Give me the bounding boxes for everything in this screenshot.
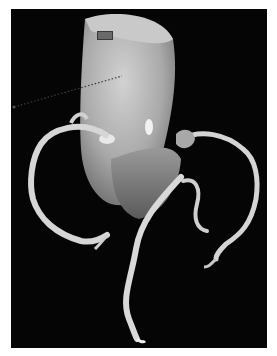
diagonal-branch <box>183 180 207 231</box>
orientation-marker <box>97 31 113 40</box>
circumflex-artery <box>181 134 257 259</box>
heart-base <box>111 147 181 219</box>
coronary-ct-illustration <box>11 9 267 348</box>
ct-render-frame <box>11 9 267 348</box>
